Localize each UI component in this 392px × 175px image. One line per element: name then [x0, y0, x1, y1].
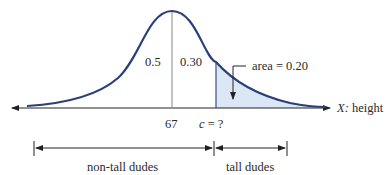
left-area-label: 0.5 — [145, 55, 161, 69]
cutoff-label: c = ? — [199, 117, 224, 131]
normal-distribution-diagram: 0.5 0.30 area = 0.20 67 c = ? X: height … — [0, 0, 392, 175]
right-group-label: tall dudes — [226, 160, 274, 174]
mean-label: 67 — [165, 117, 178, 131]
middle-area-label: 0.30 — [180, 55, 202, 69]
left-group-label: non-tall dudes — [87, 160, 158, 174]
tail-area-label: area = 0.20 — [252, 59, 308, 73]
x-axis-label: X: height — [336, 101, 384, 115]
